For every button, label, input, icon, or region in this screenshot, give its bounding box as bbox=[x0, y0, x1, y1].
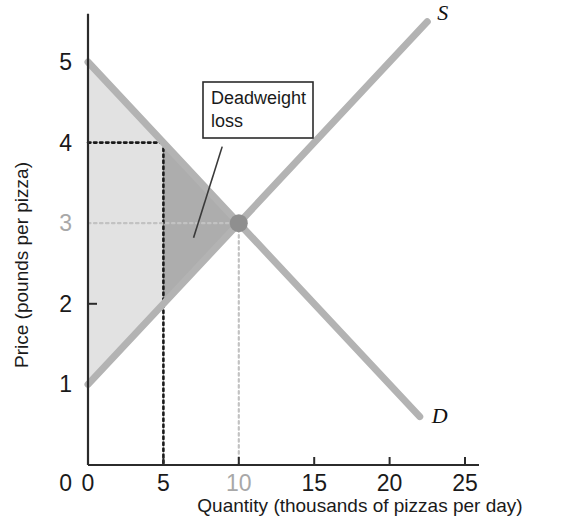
x-tick-label-0: 0 bbox=[82, 470, 95, 496]
supply-demand-chart: 0510152025 012345 S D Quantity (thousand… bbox=[0, 0, 566, 523]
y-tick-label-2: 2 bbox=[59, 291, 72, 317]
x-tick-label-20: 20 bbox=[377, 470, 403, 496]
y-tick-label-5: 5 bbox=[59, 49, 72, 75]
x-tick-label-15: 15 bbox=[301, 470, 327, 496]
y-axis-title: Price (pounds per pizza) bbox=[11, 162, 32, 368]
callout-text-line-1: Deadweight bbox=[211, 88, 306, 108]
equilibrium-point bbox=[230, 214, 248, 232]
x-axis-title: Quantity (thousands of pizzas per day) bbox=[197, 495, 522, 516]
y-tick-label-0: 0 bbox=[59, 470, 72, 496]
chart-canvas: 0510152025 012345 S D Quantity (thousand… bbox=[0, 0, 566, 523]
y-axis-tick-labels: 012345 bbox=[59, 49, 72, 496]
x-tick-label-25: 25 bbox=[452, 470, 478, 496]
y-tick-label-1: 1 bbox=[59, 371, 72, 397]
y-tick-label-4: 4 bbox=[59, 130, 72, 156]
y-tick-label-3: 3 bbox=[59, 210, 72, 236]
x-axis-tick-labels: 0510152025 bbox=[82, 470, 478, 496]
x-tick-label-5: 5 bbox=[157, 470, 170, 496]
x-axis-ticks bbox=[163, 457, 465, 465]
supply-curve-label: S bbox=[437, 0, 448, 25]
callout-text-line-2: loss bbox=[211, 111, 243, 131]
demand-curve-label: D bbox=[431, 403, 448, 428]
x-tick-label-10: 10 bbox=[226, 470, 252, 496]
